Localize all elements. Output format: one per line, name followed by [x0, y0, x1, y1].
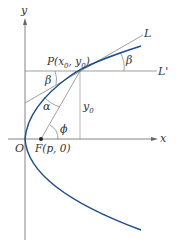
line-L-label: L: [144, 28, 151, 39]
focus-point: [39, 137, 43, 141]
parabola-reflection-diagram: y x O F(p, 0) P(x0, y0) L L' β β α ϕ y0: [0, 0, 188, 248]
point-P-label: P(x0, y0): [47, 56, 90, 70]
y-axis-arrow-icon: [23, 18, 27, 25]
origin-label: O: [15, 143, 24, 154]
phi-arc: [50, 125, 58, 139]
focus-label: F(p, 0): [35, 143, 71, 154]
phi-label: ϕ: [60, 124, 68, 135]
diagram-canvas: [0, 0, 188, 248]
beta-right-arc: [120, 52, 124, 71]
beta-right-label: β: [126, 55, 132, 66]
x-axis-arrow-icon: [151, 137, 158, 141]
y0-label: y0: [83, 101, 94, 115]
beta-left-label: β: [45, 75, 51, 86]
alpha-label: α: [43, 101, 50, 112]
y-axis-label: y: [21, 5, 27, 16]
line-L-prime-label: L': [158, 66, 168, 77]
beta-left-arc: [55, 71, 57, 85]
x-axis-label: x: [160, 133, 166, 144]
